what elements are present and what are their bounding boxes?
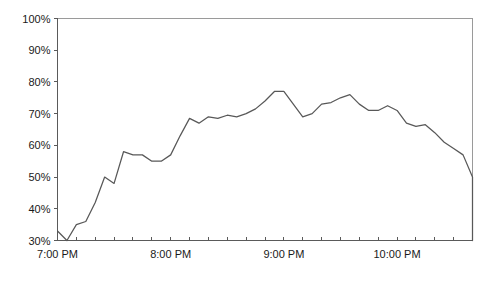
chart-plot-area: 100%90%80%70%60%50%40%30% 7:00 PM8:00 PM… — [0, 0, 493, 285]
y-tick-label: 80% — [28, 76, 50, 88]
y-tick-label: 90% — [28, 44, 50, 56]
y-tick-label: 100% — [22, 13, 50, 25]
data-line — [58, 91, 473, 240]
x-tick-label: 9:00 PM — [263, 248, 304, 260]
x-axis-tick-labels: 7:00 PM8:00 PM9:00 PM10:00 PM — [37, 248, 421, 260]
plot-axis-left-bottom — [58, 19, 473, 241]
x-axis-ticks — [58, 237, 473, 241]
y-tick-label: 50% — [28, 171, 50, 183]
x-tick-label: 10:00 PM — [373, 248, 420, 260]
y-tick-label: 30% — [28, 235, 50, 247]
y-tick-label: 60% — [28, 139, 50, 151]
y-tick-label: 70% — [28, 108, 50, 120]
line-chart: 100%90%80%70%60%50%40%30% 7:00 PM8:00 PM… — [0, 0, 493, 285]
y-tick-label: 40% — [28, 203, 50, 215]
x-tick-label: 7:00 PM — [37, 248, 78, 260]
y-axis-tick-labels: 100%90%80%70%60%50%40%30% — [22, 13, 50, 247]
x-tick-label: 8:00 PM — [150, 248, 191, 260]
plot-frame — [58, 19, 473, 241]
y-axis-ticks — [54, 19, 58, 241]
data-series-group — [58, 91, 473, 240]
plot-border-top-right — [58, 19, 473, 241]
